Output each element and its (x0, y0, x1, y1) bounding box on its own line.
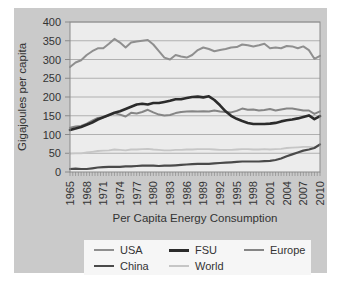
legend-item-world: World (169, 258, 244, 274)
x-tick-label-1998: 1998 (247, 181, 259, 205)
legend-label-fsu: FSU (195, 242, 217, 258)
legend-label-china: China (120, 258, 149, 274)
x-tick-label-1983: 1983 (164, 181, 176, 205)
x-tick-label-1974: 1974 (114, 181, 126, 205)
legend-label-world: World (195, 258, 224, 274)
x-tick-label-1992: 1992 (214, 181, 226, 205)
x-tick-label-2007: 2007 (297, 181, 309, 205)
x-tick-label-2010: 2010 (314, 181, 326, 205)
legend-label-europe: Europe (270, 242, 305, 258)
y-axis-title: Gigajoules per capita (16, 42, 28, 151)
x-tick-label-1986: 1986 (181, 181, 193, 205)
x-tick-label-1980: 1980 (147, 181, 159, 205)
legend-item-europe: Europe (244, 242, 311, 258)
legend-swatch-fsu-line-icon (169, 249, 189, 252)
legend-swatch-europe-line-icon (244, 249, 264, 251)
chart-card: 0501001502002503003504001965196819711974… (14, 8, 327, 273)
y-tick-label-400: 400 (43, 16, 61, 28)
legend-item-china: China (94, 258, 169, 274)
page-root: { "colors": { "page_bg": "#ffffff", "car… (0, 0, 342, 287)
y-tick-label-350: 350 (43, 35, 61, 47)
legend-item-fsu: FSU (169, 242, 244, 258)
x-tick-label-1977: 1977 (131, 181, 143, 205)
legend-swatch-world-line-icon (169, 265, 189, 267)
y-tick-label-200: 200 (43, 91, 61, 103)
legend-swatch-china-line-icon (94, 265, 114, 267)
x-tick-label-1989: 1989 (197, 181, 209, 205)
x-tick-label-1995: 1995 (231, 181, 243, 205)
legend-label-usa: USA (120, 242, 143, 258)
x-tick-label-2004: 2004 (281, 181, 293, 205)
y-tick-label-0: 0 (55, 166, 61, 178)
y-tick-label-300: 300 (43, 54, 61, 66)
chart-legend: USA FSU Europe China World (84, 240, 311, 275)
x-tick-label-1971: 1971 (97, 181, 109, 205)
energy-chart: 0501001502002503003504001965196819711974… (14, 8, 327, 240)
legend-swatch-usa-line-icon (94, 249, 114, 251)
x-tick-label-1968: 1968 (81, 181, 93, 205)
y-tick-label-50: 50 (49, 147, 61, 159)
x-axis-title: Per Capita Energy Consumption (113, 212, 278, 224)
legend-item-usa: USA (94, 242, 169, 258)
y-tick-label-150: 150 (43, 110, 61, 122)
y-tick-label-250: 250 (43, 72, 61, 84)
x-tick-label-2001: 2001 (264, 181, 276, 205)
x-tick-label-1965: 1965 (64, 181, 76, 205)
y-tick-label-100: 100 (43, 129, 61, 141)
